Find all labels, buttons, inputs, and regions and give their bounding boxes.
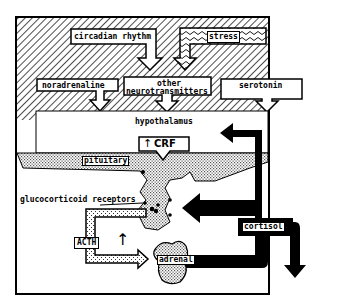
receptor-dot bbox=[141, 170, 145, 174]
pituitary-label: pituitary bbox=[82, 156, 129, 166]
crf-arrow-glyph: ↑ bbox=[143, 138, 152, 149]
acth-arrow-glyph: ↑ bbox=[116, 232, 129, 248]
adrenal-label: adrenal bbox=[157, 255, 195, 265]
receptor-dot bbox=[168, 198, 172, 202]
noradrenaline-label: noradrenaline bbox=[42, 82, 105, 90]
receptor-dot bbox=[154, 209, 158, 213]
glucocorticoid-receptors-label: glucocorticoid receptors bbox=[20, 196, 136, 204]
acth-label: ACTH bbox=[74, 237, 99, 249]
stress-label: stress bbox=[207, 31, 240, 43]
receptor-dot bbox=[143, 201, 147, 205]
receptor-dot bbox=[156, 203, 160, 207]
serotonin-label: serotonin bbox=[239, 82, 282, 90]
crf-label: CRF bbox=[154, 139, 176, 149]
hpa-axis-diagram: circadian rhythm stress noradrenaline ot… bbox=[0, 0, 342, 307]
receptor-dot bbox=[150, 207, 154, 211]
circadian-rhythm-label: circadian rhythm bbox=[74, 33, 151, 41]
hypothalamus-label: hypothalamus bbox=[135, 118, 193, 126]
receptor-dot bbox=[168, 213, 172, 217]
neurotransmitters-label: neurotransmitters bbox=[126, 88, 208, 96]
cortisol-label: cortisol bbox=[243, 223, 284, 231]
